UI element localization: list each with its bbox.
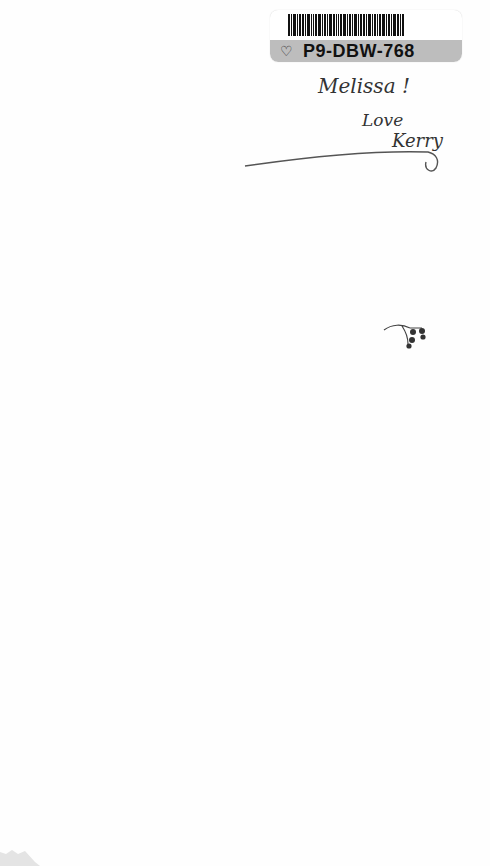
signature-flourish (240, 140, 450, 180)
book-page: ♡ P9-DBW-768 Happy ... Melissa ! Love Ke… (0, 0, 490, 866)
heart-outline-icon: ♡ (280, 43, 293, 59)
inscription-name: Melissa ! (318, 74, 410, 98)
page-corner-shadow (0, 826, 60, 866)
barcode-sticker: ♡ P9-DBW-768 (270, 10, 462, 62)
inscription-closing: Love (362, 110, 403, 130)
berry-sprig-icon (382, 318, 432, 352)
barcode (288, 14, 448, 36)
